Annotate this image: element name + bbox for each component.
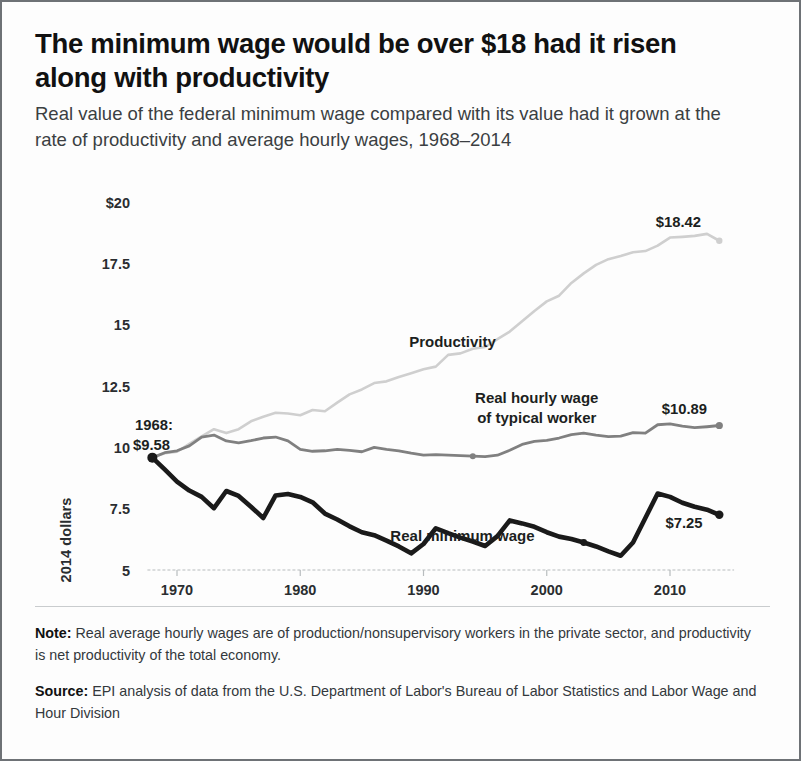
x-axis-tick-label: 2010	[654, 582, 686, 598]
start-annotation-year: 1968:	[135, 417, 173, 433]
x-axis-tick-label: 1970	[161, 582, 193, 598]
hourly-wage-marker-dot	[470, 453, 476, 459]
page-title: The minimum wage would be over $18 had i…	[35, 27, 735, 96]
y-axis-tick-label: 7.5	[110, 501, 130, 517]
hourly-wage-end-dot	[716, 422, 723, 429]
x-axis-tick-label: 1990	[407, 582, 439, 598]
source-text: EPI analysis of data from the U.S. Depar…	[35, 683, 756, 721]
footer-notes: Note: Real average hourly wages are of p…	[35, 622, 765, 725]
line-chart-svg: 57.51012.51517.5$20197019801990200020101…	[2, 172, 801, 602]
x-axis-tick-label: 1980	[284, 582, 316, 598]
chart-figure: The minimum wage would be over $18 had i…	[0, 0, 801, 761]
figure-inner: The minimum wage would be over $18 had i…	[2, 2, 799, 759]
source-label: Source:	[35, 683, 88, 699]
start-annotation-value: $9.58	[133, 437, 170, 453]
productivity-end-dot	[716, 238, 722, 244]
y-axis-title: 2014 dollars	[58, 470, 74, 610]
chart-subtitle: Real value of the federal minimum wage c…	[35, 101, 747, 154]
hourly-wage-end-label: $10.89	[662, 401, 707, 417]
hourly-wage-series-label-line2: of typical worker	[477, 409, 596, 426]
x-axis-tick-label: 2000	[531, 582, 563, 598]
minimum-wage-end-dot	[715, 511, 723, 519]
productivity-series-label: Productivity	[409, 333, 496, 350]
productivity-end-label: $18.42	[656, 214, 701, 230]
minimum-wage-series-label: Real minimum wage	[390, 527, 534, 544]
y-axis-tick-label: $20	[106, 195, 130, 211]
footer-divider	[35, 606, 770, 607]
note-text: Real average hourly wages are of product…	[35, 625, 751, 663]
y-axis-tick-label: 10	[114, 440, 130, 456]
minimum-wage-start-dot	[147, 453, 157, 463]
y-axis-tick-label: 5	[122, 563, 130, 579]
y-axis-tick-label: 15	[114, 317, 130, 333]
minimum-wage-marker-dot	[580, 539, 587, 546]
note-row: Note: Real average hourly wages are of p…	[35, 622, 765, 666]
y-axis-tick-label: 12.5	[102, 379, 130, 395]
source-row: Source: EPI analysis of data from the U.…	[35, 680, 765, 724]
chart-plot-area: 2014 dollars 57.51012.51517.5$2019701980…	[2, 172, 801, 602]
y-axis-tick-label: 17.5	[102, 256, 130, 272]
note-label: Note:	[35, 625, 72, 641]
hourly-wage-series-label-line1: Real hourly wage	[475, 389, 598, 406]
minimum-wage-end-label: $7.25	[665, 515, 702, 531]
